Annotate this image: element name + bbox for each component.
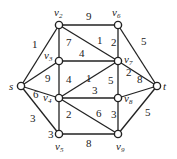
edge-weight-label: 5	[145, 106, 151, 118]
edge-weight-label: 6	[33, 88, 39, 100]
node-s	[17, 82, 24, 89]
edge-s-v2	[21, 25, 59, 86]
edge-weight-label: 1	[86, 72, 92, 84]
edge-weight-label: 4	[79, 47, 85, 59]
edge-weight-label: 8	[137, 73, 143, 85]
edge-weight-label: 5	[108, 74, 114, 86]
node-t	[153, 82, 160, 89]
edge-weight-label: 3	[30, 112, 36, 124]
edge-weight-label: 1	[32, 38, 38, 50]
network-graph: 1963971254413528263583 sv2v3v4v5v6v7v8v9…	[0, 0, 177, 159]
edge-weight-label: 1	[97, 34, 103, 46]
node-v5	[55, 130, 62, 137]
node-label: v2	[54, 6, 63, 20]
edge-weight-label: 8	[86, 137, 92, 149]
edge-weight-label: 2	[111, 36, 117, 48]
node-v3	[55, 57, 62, 64]
edge-weight-label: 9	[86, 10, 92, 22]
edge-weight-label: 7	[66, 36, 72, 48]
node-label: t	[163, 80, 167, 92]
edge-weight-label: 2	[126, 66, 132, 78]
node-label: v5	[55, 140, 64, 154]
edge-weight-label: 5	[141, 35, 147, 47]
edge-weight-label: 2	[66, 108, 72, 120]
edge-weight-label: 3	[111, 108, 117, 120]
graph-diagram: 1963971254413528263583 sv2v3v4v5v6v7v8v9…	[0, 0, 177, 159]
node-v6	[114, 21, 121, 28]
node-label: v6	[112, 6, 121, 20]
node-v9	[114, 130, 121, 137]
node-label: v4	[43, 91, 52, 105]
node-label: s	[9, 80, 13, 92]
edge-s-v3	[21, 61, 59, 86]
node-v4	[55, 94, 62, 101]
edge-weights-layer: 1963971254413528263583	[30, 10, 151, 149]
node-v8	[114, 94, 121, 101]
edge-weight-label: 6	[96, 107, 102, 119]
node-label: v3	[44, 49, 53, 63]
edge-weight-label: 4	[66, 73, 72, 85]
node-label: v7	[124, 53, 133, 67]
edge-weight-label: 3	[92, 84, 98, 96]
edge-weight-label: 3	[48, 128, 54, 140]
node-label: v9	[116, 140, 125, 154]
node-v2	[55, 21, 62, 28]
edge-weight-label: 9	[45, 72, 51, 84]
edge-s-v5	[21, 86, 59, 134]
edge-s-v4	[21, 86, 59, 98]
node-v7	[114, 57, 121, 64]
